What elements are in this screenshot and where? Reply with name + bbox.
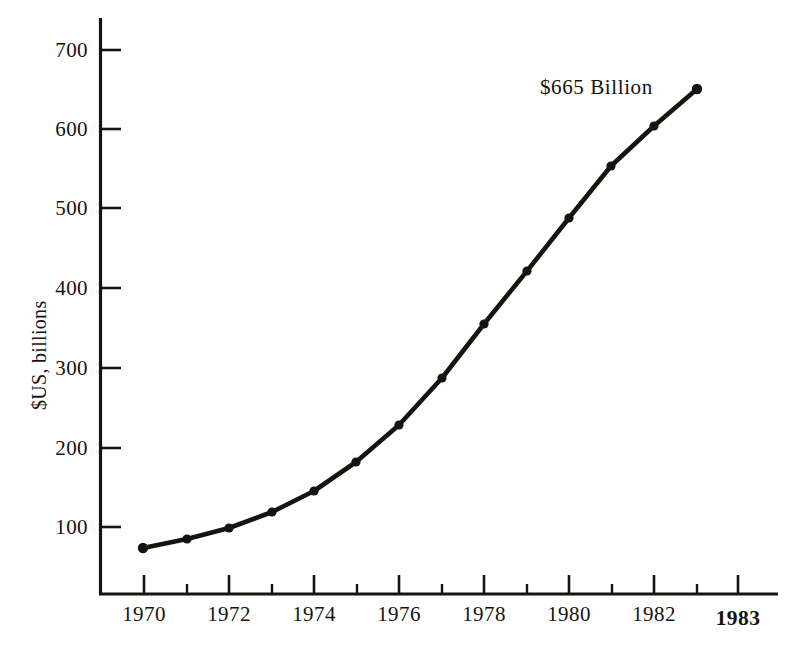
y-axis-ticks [101,50,121,527]
chart-figure: 700 600 500 400 300 200 100 1970 1972 19… [0,0,789,654]
x-tick-label-1983: 1983 [716,606,761,631]
x-tick-label-1980: 1980 [547,602,591,627]
y-tick-label-700: 700 [33,38,88,63]
value-callout-annotation: $665 Billion [540,75,653,100]
data-point-1970 [138,543,148,553]
x-tick-label-1974: 1974 [292,602,336,627]
data-point-1974 [309,486,318,495]
data-point-1976 [394,420,403,429]
series-polyline [143,89,697,548]
y-tick-label-200: 200 [33,436,88,461]
data-series-line [143,89,697,548]
data-point-1973 [267,507,276,516]
x-tick-label-1970: 1970 [122,602,166,627]
x-tick-label-1982: 1982 [632,602,676,627]
x-axis-minor-ticks [187,584,697,593]
data-point-1983 [692,84,702,94]
x-tick-label-1972: 1972 [207,602,251,627]
y-tick-label-100: 100 [33,515,88,540]
line-chart-plot [0,0,789,654]
data-point-1975 [351,457,360,466]
data-point-1981 [606,161,615,170]
data-point-1971 [182,534,191,543]
data-point-1982 [649,121,658,130]
y-axis-title: $US, billions [28,301,51,410]
data-point-1978 [479,319,488,328]
data-series-markers [138,84,702,553]
data-point-1980 [564,213,573,222]
y-tick-label-400: 400 [33,276,88,301]
y-tick-label-500: 500 [33,196,88,221]
y-tick-label-600: 600 [33,117,88,142]
data-point-1977 [437,373,446,382]
x-tick-label-1976: 1976 [377,602,421,627]
x-tick-label-1978: 1978 [462,602,506,627]
data-point-1979 [522,266,531,275]
data-point-1972 [224,523,233,532]
